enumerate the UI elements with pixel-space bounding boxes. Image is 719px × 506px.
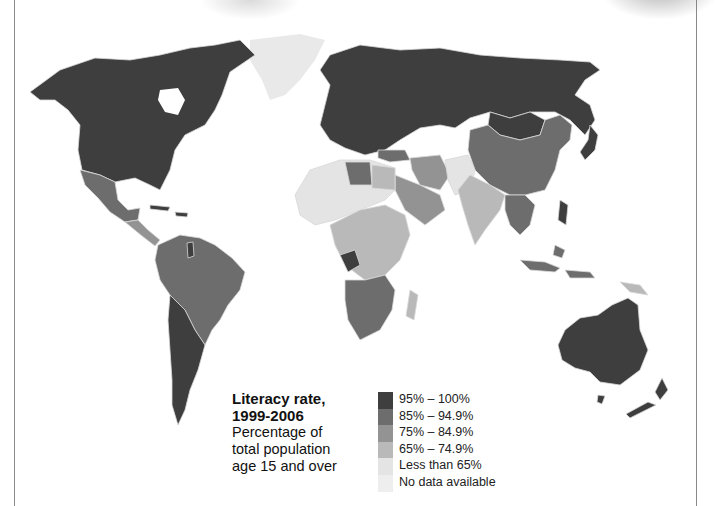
legend-swatch-lt65 <box>378 458 393 475</box>
region-greenland <box>250 34 325 100</box>
region-southern-africa <box>345 275 395 340</box>
legend-swatch-75-84 <box>378 425 393 442</box>
legend-label: Less than 65% <box>399 457 496 474</box>
legend-swatches <box>378 392 393 492</box>
legend-desc-line1: Percentage of <box>232 424 337 441</box>
legend-label: 75% – 84.9% <box>399 424 496 441</box>
legend-title-line2: 1999-2006 <box>232 407 325 424</box>
legend-description: Percentage of total population age 15 an… <box>232 424 337 475</box>
legend-labels: 95% – 100% 85% – 94.9% 75% – 84.9% 65% –… <box>399 391 496 491</box>
region-libya <box>345 162 372 185</box>
legend-swatch-65-74 <box>378 442 393 459</box>
region-caribbean <box>150 205 188 217</box>
region-new-zealand <box>626 378 668 418</box>
region-indonesia <box>520 245 595 278</box>
region-central-america <box>125 220 160 246</box>
legend-swatch-nodata <box>378 475 393 492</box>
legend-desc-line2: total population <box>232 441 337 458</box>
region-north-america <box>30 40 255 190</box>
legend-title: Literacy rate, 1999-2006 <box>232 390 325 424</box>
legend-swatch-85-94 <box>378 409 393 426</box>
region-southeast-asia <box>505 195 535 235</box>
region-turkey <box>378 150 410 162</box>
region-tasmania <box>597 395 605 404</box>
region-papua <box>620 282 648 295</box>
region-egypt <box>372 165 395 190</box>
region-australia <box>558 298 648 385</box>
legend-title-line1: Literacy rate, <box>232 390 325 407</box>
region-madagascar <box>406 290 418 320</box>
region-guyana <box>187 242 194 258</box>
legend-label: 95% – 100% <box>399 391 496 408</box>
legend-label: 85% – 94.9% <box>399 408 496 425</box>
legend-desc-line3: age 15 and over <box>232 458 337 475</box>
region-philippines <box>558 200 568 225</box>
legend-label: No data available <box>399 474 496 491</box>
legend-swatch-95-100 <box>378 392 393 409</box>
legend-label: 65% – 74.9% <box>399 441 496 458</box>
